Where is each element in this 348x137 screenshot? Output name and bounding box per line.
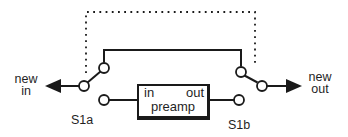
s1a-common-contact <box>79 81 89 91</box>
s1a-preamp-contact <box>99 95 109 105</box>
preamp-in-port-label: in <box>144 86 154 100</box>
s1a-blade-wire <box>88 72 101 83</box>
preamp-box: in out preamp <box>137 84 210 120</box>
s1a-throw-contact <box>99 63 109 73</box>
s1b-blade-wire <box>245 76 258 83</box>
new-in-arrow-icon <box>45 79 61 93</box>
bypass-wire <box>104 50 241 67</box>
preamp-io-row: in out <box>139 86 207 100</box>
new-out-label: new out <box>300 72 340 95</box>
new-out-label-line2: out <box>300 84 340 96</box>
gang-link-dotted-wire <box>86 12 255 73</box>
s1b-throw-contact <box>236 67 246 77</box>
new-in-label-line2: in <box>6 86 46 98</box>
s1b-common-contact <box>257 81 267 91</box>
switch-s1b-label: S1b <box>223 119 255 131</box>
preamp-name-label: preamp <box>139 100 207 113</box>
switch-s1a-label: S1a <box>66 114 98 126</box>
preamp-out-port-label: out <box>186 86 204 100</box>
s1b-preamp-contact <box>234 95 244 105</box>
preamp-bypass-diagram: in out preamp new in new out S1a S1b <box>0 0 348 137</box>
new-in-label: new in <box>6 74 46 97</box>
